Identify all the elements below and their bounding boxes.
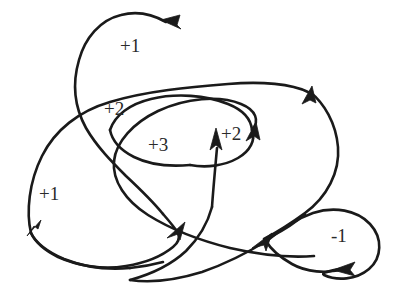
curve-segment-descend-to-lobe [130, 207, 212, 280]
region-label-left-outer: +1 [39, 184, 59, 203]
arrowhead-center-bottom-up-right [167, 222, 185, 240]
curve-diagram-figure: +1 +2 +3 +2 +1 -1 [0, 0, 402, 287]
region-label-top-loop: +1 [120, 36, 140, 55]
region-label-right-inner: +2 [221, 124, 241, 143]
curve-segment-lower-left-sweep [31, 214, 179, 268]
arrowhead-right-upper-up-right [302, 86, 316, 104]
region-label-inner-middle: +3 [148, 135, 168, 154]
curve-segment-minus-one-lobe [268, 210, 379, 279]
region-label-upper-middle: +2 [104, 99, 124, 118]
curve-segment-vertical-through-center [212, 148, 217, 207]
region-label-right-lobe: -1 [331, 226, 347, 245]
arrowhead-lobe-bottom-left [333, 262, 355, 276]
